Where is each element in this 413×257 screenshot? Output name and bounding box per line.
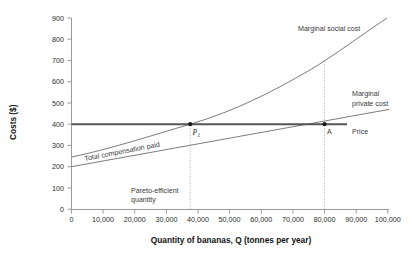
x-tick-label: 20,000 (124, 215, 146, 224)
x-tick-label: 30,000 (155, 215, 177, 224)
marginal-social-cost-curve (72, 18, 388, 157)
pareto-efficient-label-line2: quantity (131, 196, 156, 204)
y-axis-tick-labels: 900 800 700 600 500 400 300 200 100 0 (52, 14, 64, 214)
y-tick-label: 300 (52, 141, 64, 150)
x-tick-label: 80,000 (314, 215, 336, 224)
point-a-marker (322, 122, 326, 126)
y-tick-label: 500 (52, 99, 64, 108)
y-tick-label: 900 (52, 14, 64, 23)
x-tick-label: 0 (70, 215, 74, 224)
marginal-private-cost-label-line1: Marginal (352, 90, 380, 98)
y-axis-title: Costs ($) (8, 104, 18, 140)
x-axis-ticks (72, 210, 388, 214)
y-tick-label: 200 (52, 162, 64, 171)
x-tick-label: 40,000 (187, 215, 209, 224)
x-axis-title: Quantity of bananas, Q (tonnes per year) (151, 235, 312, 245)
y-tick-label: 700 (52, 56, 64, 65)
marginal-private-cost-label-line2: private cost (352, 100, 388, 108)
x-tick-label: 60,000 (250, 215, 272, 224)
x-tick-label: 100,000 (375, 215, 401, 224)
x-tick-label: 70,000 (282, 215, 304, 224)
marginal-social-cost-label: Marginal social cost (298, 25, 360, 33)
y-tick-label: 0 (60, 205, 64, 214)
y-tick-label: 400 (52, 120, 64, 129)
point-p1-marker (188, 122, 192, 126)
pareto-efficient-label-line1: Pareto-efficient (131, 187, 179, 195)
x-tick-label: 50,000 (219, 215, 241, 224)
point-p1-label: P (192, 128, 198, 137)
y-axis-ticks (68, 18, 72, 209)
x-tick-label: 90,000 (345, 215, 367, 224)
y-tick-label: 800 (52, 35, 64, 44)
point-p1-sublabel: 1 (198, 132, 201, 138)
chart-figure: Costs ($) 900 800 700 600 500 400 300 20… (0, 0, 413, 257)
marginal-private-cost-curve (72, 109, 390, 166)
y-tick-label: 600 (52, 77, 64, 86)
point-a-label: A (327, 128, 332, 136)
x-tick-label: 10,000 (92, 215, 114, 224)
price-label: Price (352, 128, 368, 136)
x-axis-tick-labels: 0 10,000 20,000 30,000 40,000 50,000 60,… (70, 215, 401, 224)
y-tick-label: 100 (52, 184, 64, 193)
chart-svg: Costs ($) 900 800 700 600 500 400 300 20… (0, 0, 413, 257)
